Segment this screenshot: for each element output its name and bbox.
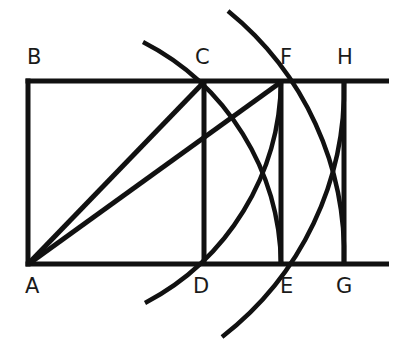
diagonal-af — [30, 82, 281, 263]
label-b: B — [27, 45, 41, 69]
label-h: H — [337, 45, 353, 69]
geometric-diagram: B C F H A D E G — [0, 0, 411, 354]
label-a: A — [25, 274, 40, 298]
label-g: G — [336, 274, 352, 298]
arc-a-through-c — [143, 42, 281, 264]
label-e: E — [280, 274, 293, 298]
label-f: F — [280, 45, 292, 69]
label-c: C — [195, 45, 210, 69]
diagonal-ac — [30, 82, 204, 262]
label-d: D — [193, 274, 209, 298]
arc-b-through-d — [145, 81, 281, 303]
